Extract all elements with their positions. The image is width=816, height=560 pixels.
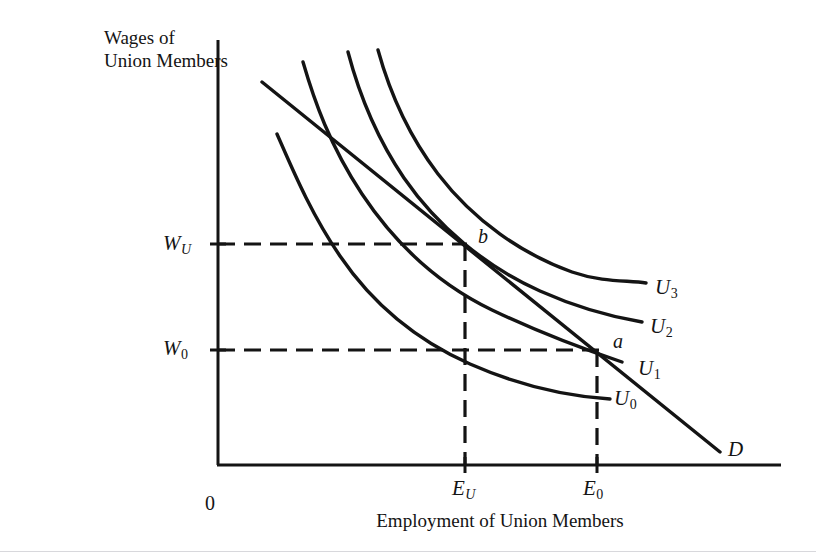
x-tick-label-eu-sub: U (465, 487, 476, 502)
curve-label-u2-sub: 2 (665, 325, 673, 340)
y-tick-label-wu-sub: U (181, 242, 192, 257)
y-axis-title-line2: Union Members (104, 49, 228, 72)
y-tick-label-w0: W0 (163, 336, 188, 363)
curve-label-u3-base: U (655, 275, 670, 299)
y-tick-label-wu: WU (163, 231, 191, 258)
tick-marks (210, 244, 597, 473)
dashed-guides (218, 244, 599, 465)
x-tick-label-eu-base: E (452, 476, 465, 500)
curve-label-u3-sub: 3 (670, 286, 678, 301)
y-axis-title-line1: Wages of (104, 26, 228, 49)
curve-label-u0-base: U (614, 386, 629, 410)
x-tick-label-eu: EU (452, 476, 475, 503)
x-axis-title: Employment of Union Members (350, 509, 650, 532)
point-label-a: a (613, 330, 623, 353)
curve-label-u0: U0 (614, 386, 637, 413)
curve-u1 (303, 62, 622, 362)
curve-label-u3: U3 (655, 275, 678, 302)
curve-label-u1-sub: 1 (653, 367, 661, 382)
curve-u3 (378, 50, 646, 283)
y-tick-label-w0-base: W (163, 336, 181, 360)
curve-label-u1-base: U (638, 356, 653, 380)
curve-d (262, 82, 720, 452)
curve-label-u0-sub: 0 (629, 397, 637, 412)
curve-label-d: D (728, 437, 743, 462)
curve-label-u2-base: U (650, 314, 665, 338)
x-tick-label-e0: E0 (583, 476, 603, 503)
x-tick-label-e0-base: E (583, 476, 596, 500)
axis-lines (217, 40, 781, 465)
y-tick-label-wu-base: W (163, 231, 181, 255)
curve-label-u2: U2 (650, 314, 673, 341)
point-label-b: b (478, 225, 488, 248)
x-tick-label-e0-sub: 0 (596, 487, 604, 502)
curve-label-u1: U1 (638, 356, 661, 383)
y-axis-title: Wages of Union Members (104, 26, 228, 72)
y-tick-label-w0-sub: 0 (181, 347, 189, 362)
page-bottom-rule (0, 551, 816, 552)
figure-page: Wages of Union Members Employment of Uni… (0, 0, 816, 560)
union-wage-employment-diagram (0, 0, 816, 560)
origin-label: 0 (205, 492, 215, 515)
demand-curve (262, 82, 720, 452)
